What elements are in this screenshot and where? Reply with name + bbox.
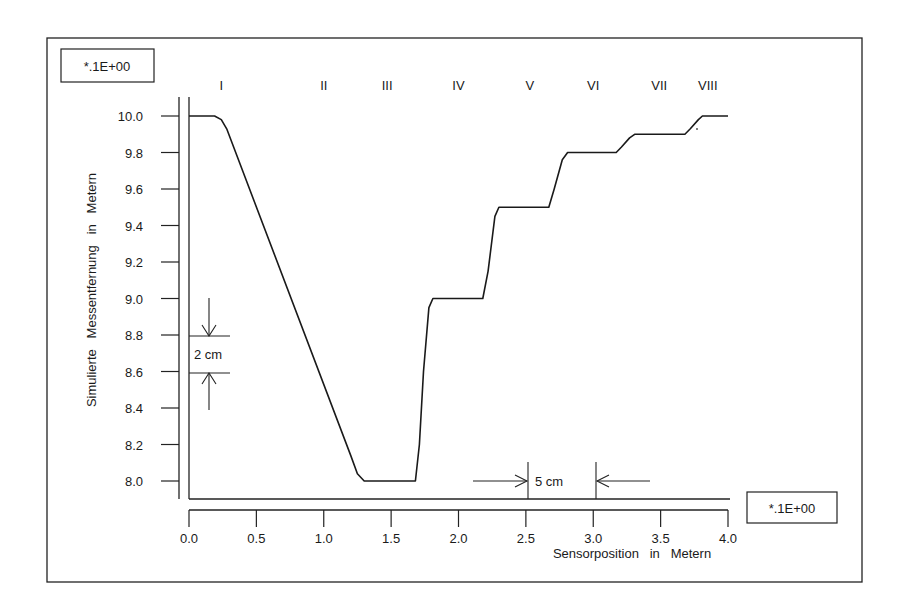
y-tick-label: 9.4 <box>125 219 143 234</box>
x-tick-label: 3.5 <box>652 531 670 546</box>
x-tick-label: 1.5 <box>382 531 400 546</box>
region-label: VIII <box>698 78 718 93</box>
y-tick-label: 9.6 <box>125 182 143 197</box>
x-tick-label: 3.0 <box>584 531 602 546</box>
x-axis-title: Sensorposition in Metern <box>553 546 711 561</box>
speck <box>696 128 698 130</box>
y-tick-label: 8.4 <box>125 401 143 416</box>
y-tick-label: 9.0 <box>125 292 143 307</box>
x-tick-label: 0.5 <box>247 531 265 546</box>
region-label: I <box>220 78 224 93</box>
annotation-5cm-label: 5 cm <box>535 474 563 489</box>
annotation-2cm: 2 cm <box>189 298 230 410</box>
y-tick-label: 9.2 <box>125 255 143 270</box>
y-tick-label: 8.6 <box>125 365 143 380</box>
chart-figure: *.1E+00 *.1E+00 Simulierte Messentfernun… <box>0 0 903 613</box>
region-label: IV <box>452 78 465 93</box>
y-axis: 10.09.89.69.49.29.08.88.68.48.28.0 <box>118 97 179 499</box>
data-line <box>189 116 728 481</box>
x-axis: 0.00.51.01.52.02.53.03.54.0 <box>180 510 737 546</box>
y-tick-label: 8.2 <box>125 438 143 453</box>
region-label: VII <box>651 78 667 93</box>
y-tick-label: 10.0 <box>118 109 143 124</box>
annotation-5cm: 5 cm <box>473 462 650 499</box>
y-scale-box: *.1E+00 <box>61 49 154 82</box>
region-label: III <box>382 78 393 93</box>
annotation-2cm-label: 2 cm <box>194 347 222 362</box>
y-tick-label: 8.8 <box>125 328 143 343</box>
region-label: V <box>526 78 535 93</box>
region-labels: IIIIIIIVVVIVIIVIII <box>220 78 718 93</box>
y-tick-label: 9.8 <box>125 146 143 161</box>
region-label: II <box>320 78 327 93</box>
x-tick-label: 1.0 <box>315 531 333 546</box>
x-scale-label: *.1E+00 <box>769 501 816 516</box>
x-tick-label: 0.0 <box>180 531 198 546</box>
x-tick-label: 4.0 <box>719 531 737 546</box>
y-scale-label: *.1E+00 <box>84 59 131 74</box>
x-tick-label: 2.5 <box>517 531 535 546</box>
x-scale-box: *.1E+00 <box>747 492 837 523</box>
region-label: VI <box>587 78 599 93</box>
outer-frame <box>47 38 862 582</box>
y-axis-title: Simulierte Messentfernung in Metern <box>84 173 99 407</box>
y-tick-label: 8.0 <box>125 474 143 489</box>
x-tick-label: 2.0 <box>449 531 467 546</box>
